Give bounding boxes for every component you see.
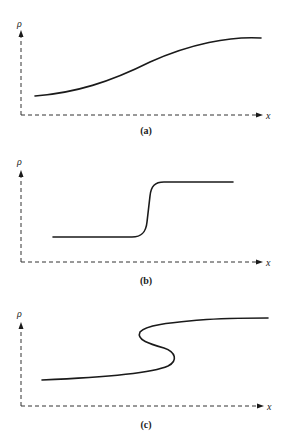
curve-b <box>53 182 233 237</box>
x-label-a: x <box>265 110 271 121</box>
x-label-c: x <box>266 401 272 412</box>
x-arrow-icon <box>257 404 264 409</box>
caption-c: (c) <box>140 419 151 431</box>
caption-b: (b) <box>140 275 152 287</box>
y-arrow-icon <box>19 30 24 37</box>
x-label-b: x <box>265 257 271 268</box>
y-arrow-icon <box>19 322 24 329</box>
panel-a: ρ x (a) <box>16 18 271 137</box>
y-label-c: ρ <box>16 308 22 319</box>
panel-c: ρ x (c) <box>16 308 272 431</box>
x-arrow-icon <box>256 260 263 265</box>
curve-a <box>35 38 261 96</box>
panel-b: ρ x (b) <box>16 156 271 287</box>
y-arrow-icon <box>19 170 24 177</box>
curve-c <box>42 318 268 380</box>
y-label-b: ρ <box>16 156 22 167</box>
diagram-canvas: ρ x (a) ρ x (b) ρ x (c) <box>0 0 288 439</box>
y-label-a: ρ <box>16 18 22 29</box>
x-arrow-icon <box>256 113 263 118</box>
caption-a: (a) <box>140 125 152 137</box>
